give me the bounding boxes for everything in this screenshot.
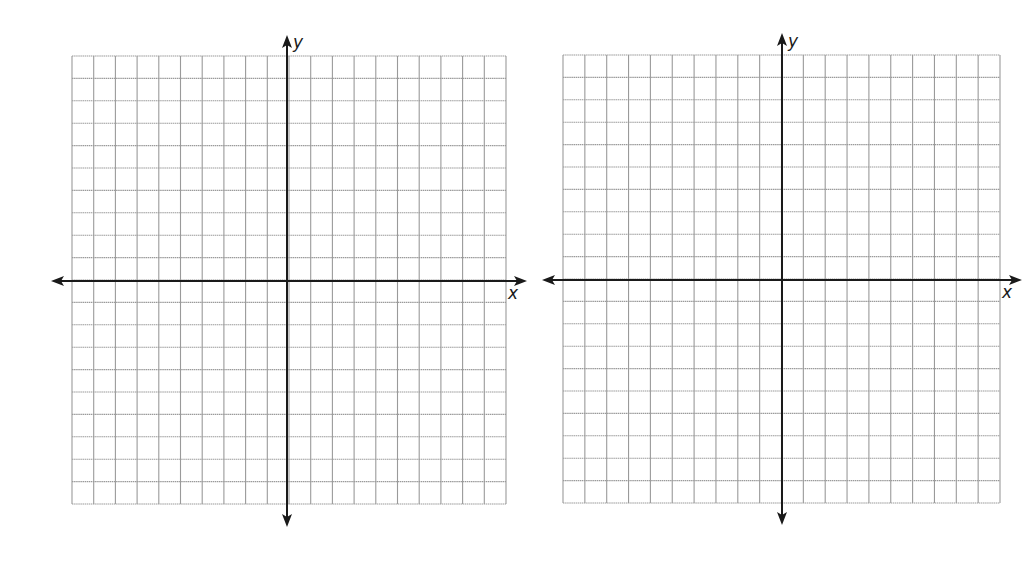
left-x-axis-label: x [508,285,518,302]
left-y-axis-label: y [293,34,303,51]
right-x-axis-label: x [1002,284,1012,301]
right-y-axis-label: y [788,33,798,50]
left-coordinate-plane [51,35,527,527]
right-coordinate-plane [542,33,1022,525]
